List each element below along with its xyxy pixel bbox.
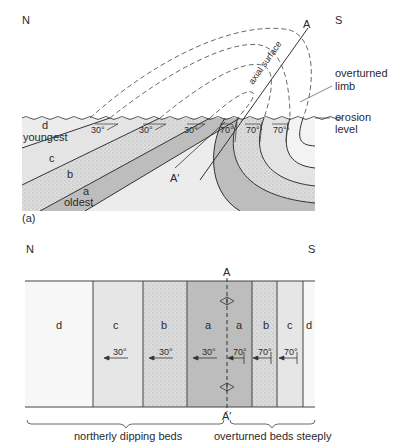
south-label-b: S: [308, 243, 315, 255]
north-label-b: N: [26, 243, 34, 255]
axial-top-label: A: [303, 18, 311, 30]
brace-northerly: [27, 420, 224, 428]
erosion-level-label-2: level: [335, 123, 358, 135]
south-label-a: S: [335, 14, 342, 26]
bed-d-note: youngest: [23, 131, 68, 143]
col-dip-7: 70°: [284, 347, 298, 357]
axial-surface-label: axial surface: [246, 39, 283, 86]
fold-diagram: N S A: [0, 0, 408, 442]
dip-normal-2: 30°: [139, 125, 153, 135]
col-bed-label-5: a: [236, 319, 243, 331]
col-bed-label-1: d: [56, 319, 62, 331]
col-dip-6: 70°: [258, 347, 272, 357]
dip-overturned-3: 70°: [273, 125, 287, 135]
brace-right-label: overturned beds steeply: [214, 430, 332, 442]
overturned-limb-label-1: overturned: [335, 67, 388, 79]
axial-bottom-label: A′: [170, 172, 179, 184]
overturned-limb-leader: [300, 86, 332, 102]
col-bed-label-7: c: [287, 319, 293, 331]
col-bed-label-4: a: [205, 319, 212, 331]
col-dip-4: 30°: [202, 347, 216, 357]
brace-overturned: [230, 420, 315, 428]
map-columns: [25, 278, 315, 412]
dip-overturned-2: 70°: [246, 125, 260, 135]
col-bed-label-6: b: [263, 319, 269, 331]
axis-top-label-b: A: [223, 266, 231, 278]
bed-b-label: b: [67, 168, 73, 180]
overturned-limb-label-2: limb: [335, 80, 355, 92]
part-a-label: (a): [22, 212, 35, 224]
brace-left-label: northerly dipping beds: [74, 430, 183, 442]
bed-c-label: c: [49, 152, 55, 164]
col-dip-5: 70°: [233, 347, 247, 357]
erosion-level-label-1: erosion: [335, 111, 371, 123]
col-bed-label-8: d: [306, 319, 312, 331]
bed-d-label: d: [42, 119, 48, 131]
col-dip-3: 30°: [159, 347, 173, 357]
dip-normal-1: 30°: [91, 125, 105, 135]
col-bed-label-3: b: [161, 319, 167, 331]
north-label-a: N: [22, 14, 30, 26]
dip-normal-3: 30°: [184, 125, 198, 135]
bed-a-note: oldest: [64, 196, 93, 208]
dip-overturned-1: 70°: [220, 125, 234, 135]
col-bed-label-2: c: [113, 319, 119, 331]
col-dip-2: 30°: [113, 347, 127, 357]
